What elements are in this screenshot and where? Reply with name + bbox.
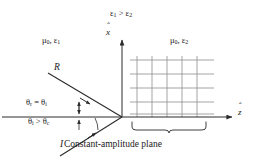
z-hat-mark: ˆ bbox=[238, 102, 241, 111]
permittivity-relation: ε1 > ε2 bbox=[110, 9, 132, 19]
x-axis-label: ˆx bbox=[106, 28, 110, 37]
incidence-angle-arc bbox=[95, 118, 98, 130]
reflection-angle-op: = bbox=[34, 97, 39, 107]
incident-ray-arrow bbox=[88, 133, 96, 138]
relation-lhs-sub: 1 bbox=[114, 12, 117, 18]
relation-rhs-sub: 2 bbox=[129, 12, 132, 18]
reflection-angle-label: θr = θi bbox=[26, 98, 47, 108]
reflected-ray-arrow bbox=[80, 98, 90, 104]
medium-1-eps-sub: 1 bbox=[57, 39, 60, 45]
constant-amplitude-grid bbox=[130, 56, 214, 117]
reflection-angle-sub: r bbox=[30, 101, 32, 107]
incidence-angle-op: > bbox=[36, 116, 41, 126]
incidence-angle-sub2: c bbox=[47, 120, 50, 126]
figure-caption: Constant-amplitude plane bbox=[64, 140, 162, 150]
reflection-angle-sub2: i bbox=[45, 101, 47, 107]
incident-ray-label: I bbox=[60, 140, 63, 150]
medium-2-label: μ0, ε2 bbox=[170, 36, 188, 46]
relation-operator: > bbox=[119, 8, 124, 18]
medium-2-eps-sub: 2 bbox=[185, 39, 188, 45]
z-axis-label: ˆz bbox=[238, 108, 242, 117]
physics-diagram: ε1 > ε2 μ0, ε1 μ0, ε2 R I θr = θi θi > θ… bbox=[0, 0, 258, 163]
reflected-ray-label: R bbox=[54, 63, 60, 73]
x-hat-mark: ˆ bbox=[107, 22, 110, 31]
incidence-angle-label: θi > θc bbox=[28, 117, 50, 127]
medium-1-label: μ0, ε1 bbox=[42, 36, 60, 46]
reflected-ray bbox=[48, 73, 122, 117]
incidence-angle-sub: i bbox=[32, 120, 34, 126]
constant-amplitude-brace bbox=[132, 122, 206, 133]
